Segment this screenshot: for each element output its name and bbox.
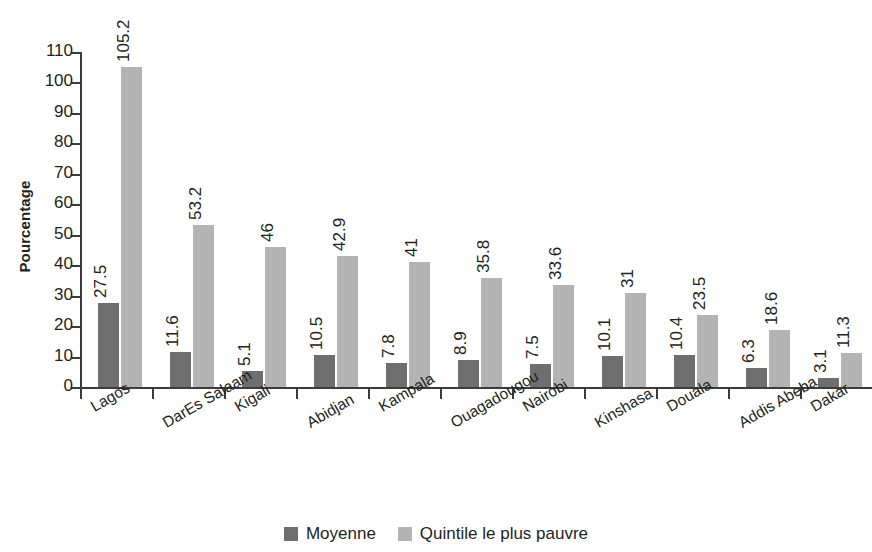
bar: 105.2 xyxy=(121,67,142,387)
bar-value-label: 53.2 xyxy=(187,187,204,220)
x-axis-tick-mark xyxy=(80,389,82,399)
bar: 41 xyxy=(409,262,430,387)
bar-value-label: 18.6 xyxy=(763,292,780,325)
y-axis-tick-label: 80 xyxy=(33,132,73,152)
bar-group: 8.935.8 xyxy=(453,51,512,387)
bar-value-label: 46 xyxy=(259,223,276,242)
bar-value-label: 10.5 xyxy=(308,317,325,350)
bar: 8.9 xyxy=(458,360,479,387)
x-axis-tick-mark xyxy=(296,389,298,399)
bar: 11.6 xyxy=(170,352,191,387)
legend-swatch xyxy=(284,527,298,541)
bar: 53.2 xyxy=(193,225,214,387)
bar-value-label: 11.3 xyxy=(835,316,852,348)
bar-group: 10.423.5 xyxy=(669,51,728,387)
bar: 33.6 xyxy=(553,285,574,387)
x-axis-category-label: Abidjan xyxy=(304,391,357,430)
y-axis-tick-label: 40 xyxy=(33,254,73,274)
bar: 31 xyxy=(625,293,646,387)
bar-group: 11.653.2 xyxy=(165,51,224,387)
bar: 23.5 xyxy=(697,315,718,387)
x-axis-tick-mark xyxy=(656,389,658,399)
bar-value-label: 105.2 xyxy=(115,19,132,62)
bar-group: 7.841 xyxy=(381,51,440,387)
bar-group: 10.542.9 xyxy=(309,51,368,387)
bar: 27.5 xyxy=(98,303,119,387)
x-axis-category-label: Kinshasa xyxy=(592,385,655,430)
y-axis-tick-label: 70 xyxy=(33,163,73,183)
bar-value-label: 3.1 xyxy=(812,349,829,373)
y-axis-tick-label: 50 xyxy=(33,224,73,244)
bar-value-label: 11.6 xyxy=(164,315,181,347)
legend-label: Quintile le plus pauvre xyxy=(420,524,588,544)
y-axis-tick-label: 90 xyxy=(33,102,73,122)
bar-value-label: 10.1 xyxy=(596,318,613,351)
bar-value-label: 31 xyxy=(619,269,636,288)
bar-group: 7.533.6 xyxy=(525,51,584,387)
y-axis-tick-label: 20 xyxy=(33,315,73,335)
y-axis-title: Pourcentage xyxy=(16,147,33,307)
x-axis-tick-mark xyxy=(440,389,442,399)
bar-chart: Pourcentage 0102030405060708090100110 27… xyxy=(0,0,872,552)
legend-label: Moyenne xyxy=(306,524,376,544)
bar: 42.9 xyxy=(337,256,358,387)
bar-value-label: 41 xyxy=(403,238,420,257)
plot-area: 0102030405060708090100110 27.5105.211.65… xyxy=(80,52,872,388)
bar-value-label: 5.1 xyxy=(236,343,253,367)
y-axis-line xyxy=(80,52,82,389)
bar-group: 5.146 xyxy=(237,51,296,387)
chart-legend: MoyenneQuintile le plus pauvre xyxy=(0,524,872,544)
bar-value-label: 42.9 xyxy=(331,218,348,251)
bar-value-label: 23.5 xyxy=(691,277,708,310)
y-axis-tick-label: 110 xyxy=(33,41,73,61)
bar-value-label: 6.3 xyxy=(740,339,757,363)
bar-group: 10.131 xyxy=(597,51,656,387)
bar: 10.5 xyxy=(314,355,335,387)
bar: 46 xyxy=(265,247,286,387)
legend-item: Quintile le plus pauvre xyxy=(398,524,588,544)
y-axis-tick-label: 100 xyxy=(33,71,73,91)
legend-item: Moyenne xyxy=(284,524,376,544)
bar-value-label: 33.6 xyxy=(547,247,564,280)
y-axis-tick-label: 10 xyxy=(33,346,73,366)
bar-value-label: 8.9 xyxy=(452,331,469,355)
legend-swatch xyxy=(398,527,412,541)
bar-value-label: 27.5 xyxy=(92,265,109,298)
x-axis-tick-mark xyxy=(584,389,586,399)
bar: 10.1 xyxy=(602,356,623,387)
bar: 18.6 xyxy=(769,330,790,387)
x-axis-tick-mark xyxy=(368,389,370,399)
bar-group: 27.5105.2 xyxy=(93,51,152,387)
y-axis-tick-label: 60 xyxy=(33,193,73,213)
bar: 6.3 xyxy=(746,368,767,387)
y-axis-tick-label: 0 xyxy=(33,376,73,396)
bar-value-label: 7.5 xyxy=(524,336,541,360)
bar-group: 3.111.3 xyxy=(813,51,872,387)
y-axis-tick-label: 30 xyxy=(33,285,73,305)
bar: 35.8 xyxy=(481,278,502,387)
x-axis-tick-mark xyxy=(728,389,730,399)
x-axis-line xyxy=(80,387,872,389)
bar-value-label: 10.4 xyxy=(668,317,685,350)
bar-value-label: 35.8 xyxy=(475,240,492,273)
bar-group: 6.318.6 xyxy=(741,51,800,387)
x-axis-tick-mark xyxy=(152,389,154,399)
bar-value-label: 7.8 xyxy=(380,335,397,359)
